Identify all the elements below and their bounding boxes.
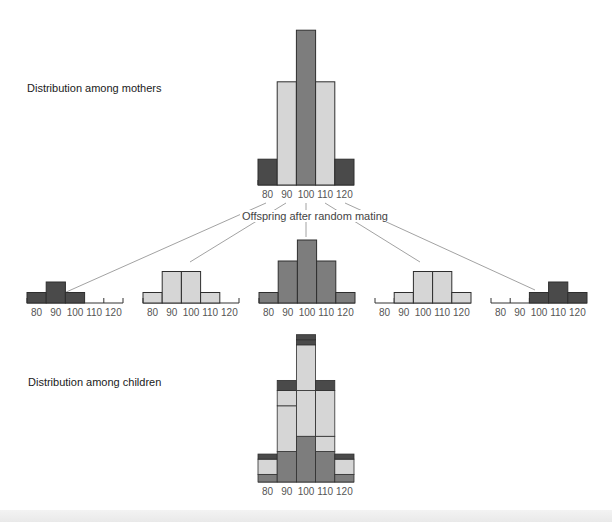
stack-segment-100 (296, 335, 315, 340)
bar-100 (65, 293, 84, 304)
stack-segment-90 (277, 380, 296, 390)
stack-segment-110 (316, 452, 335, 482)
tick-label: 100 (298, 486, 315, 497)
stack-segment-100 (296, 340, 315, 345)
stack-segment-110 (316, 436, 335, 451)
bar-110 (316, 82, 335, 185)
bar-100 (413, 272, 432, 304)
bar-110 (317, 261, 336, 303)
offspring-histogram-1: 8090100110120 (27, 282, 123, 318)
tick-label: 110 (86, 307, 102, 318)
tick-label: 110 (317, 486, 333, 497)
tick-label: 90 (281, 189, 293, 200)
inheritance-diagram: 8090100110120809010011012080901001101208… (0, 0, 612, 522)
tick-label: 80 (262, 189, 274, 200)
tick-label: 110 (202, 307, 218, 318)
stack-segment-120 (335, 474, 354, 482)
stack-segment-80 (258, 459, 277, 474)
stack-segment-120 (335, 459, 354, 474)
tick-label: 90 (514, 307, 526, 318)
tick-label: 110 (550, 307, 566, 318)
tick-label: 90 (281, 486, 293, 497)
stack-segment-110 (316, 391, 335, 437)
bar-100 (297, 240, 316, 303)
tick-label: 100 (531, 307, 548, 318)
stack-segment-110 (316, 380, 335, 390)
tick-label: 120 (569, 307, 586, 318)
bar-80 (143, 293, 162, 304)
tick-label: 80 (379, 307, 391, 318)
bar-110 (549, 282, 568, 303)
offspring-label: Offspring after random mating (240, 210, 390, 222)
bar-80 (27, 293, 46, 304)
offspring-histogram-3: 8090100110120 (259, 240, 355, 318)
tick-label: 90 (282, 307, 294, 318)
stack-segment-100 (296, 345, 315, 391)
bar-80 (258, 159, 277, 185)
tick-label: 120 (336, 189, 353, 200)
bar-100 (529, 293, 548, 304)
children-histogram: 8090100110120 (258, 335, 354, 497)
tick-label: 100 (67, 307, 84, 318)
tick-label: 100 (415, 307, 432, 318)
stack-segment-90 (277, 391, 296, 406)
stack-segment-80 (258, 474, 277, 482)
tick-label: 110 (434, 307, 450, 318)
bar-110 (433, 272, 452, 304)
tick-label: 90 (50, 307, 62, 318)
tick-label: 90 (166, 307, 178, 318)
stack-segment-120 (335, 454, 354, 459)
tick-label: 120 (221, 307, 238, 318)
bar-100 (296, 30, 315, 185)
tick-label: 100 (299, 307, 316, 318)
bar-120 (335, 159, 354, 185)
tick-label: 80 (495, 307, 507, 318)
bar-90 (277, 82, 296, 185)
bar-110 (201, 293, 220, 304)
tick-label: 90 (398, 307, 410, 318)
bar-120 (336, 293, 355, 304)
bar-120 (568, 293, 587, 304)
tick-label: 80 (147, 307, 159, 318)
bar-90 (162, 272, 181, 304)
tick-label: 80 (31, 307, 43, 318)
bar-90 (278, 261, 297, 303)
tick-label: 100 (183, 307, 200, 318)
connector-line-0 (55, 203, 266, 297)
offspring-histogram-4: 8090100110120 (375, 272, 471, 319)
mothers-histogram: 8090100110120 (258, 30, 354, 200)
stack-segment-90 (277, 452, 296, 482)
bar-90 (46, 282, 65, 303)
tick-label: 120 (105, 307, 122, 318)
stack-segment-100 (296, 391, 315, 437)
bar-100 (181, 272, 200, 304)
tick-label: 120 (453, 307, 470, 318)
stack-segment-80 (258, 454, 277, 459)
offspring-histogram-2: 8090100110120 (143, 272, 239, 319)
tick-label: 110 (317, 189, 333, 200)
offspring-histogram-5: 8090100110120 (491, 282, 587, 318)
bar-90 (394, 293, 413, 304)
bar-80 (259, 293, 278, 304)
tick-label: 80 (263, 307, 275, 318)
stack-segment-90 (277, 406, 296, 452)
tick-label: 110 (318, 307, 334, 318)
tick-label: 120 (336, 486, 353, 497)
bar-120 (452, 293, 471, 304)
tick-label: 80 (262, 486, 274, 497)
tick-label: 120 (337, 307, 354, 318)
stack-segment-100 (296, 436, 315, 482)
tick-label: 100 (298, 189, 315, 200)
footer-strip (0, 510, 612, 522)
